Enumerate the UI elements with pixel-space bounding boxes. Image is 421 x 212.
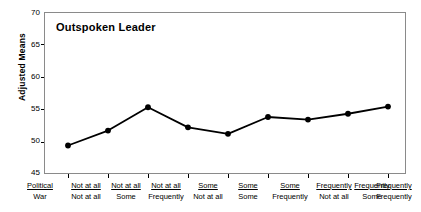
- data-point-1: [65, 143, 71, 149]
- x-tick-mark-1: [68, 174, 69, 178]
- y-tick-label-60: 60: [24, 73, 40, 81]
- chart-figure: Adjusted Means 70 65 60 55 50 45 Outspok…: [0, 0, 421, 212]
- x-category-5-line2: Some: [228, 192, 268, 203]
- y-tick-label-50: 50: [24, 137, 40, 145]
- x-axis-header-line1: Political: [18, 181, 62, 192]
- x-tick-mark-9: [388, 174, 389, 178]
- x-category-4-line1: Some: [184, 181, 232, 192]
- y-tick-label-45: 45: [24, 169, 40, 177]
- x-category-5-line1: Some: [228, 181, 268, 192]
- data-point-6: [265, 114, 271, 120]
- data-point-8: [345, 111, 351, 117]
- series-line: [68, 107, 388, 146]
- x-tick-mark-7: [308, 174, 309, 178]
- y-tick-label-55: 55: [24, 105, 40, 113]
- x-tick-mark-6: [268, 174, 269, 178]
- x-category-9-line2: Frequently: [368, 192, 420, 203]
- x-category-4: Some Not at all: [184, 181, 232, 202]
- x-axis-header-line2: War: [18, 192, 62, 203]
- x-category-9: Frequently Frequently: [368, 181, 420, 202]
- data-point-7: [305, 117, 311, 123]
- x-axis-category-labels: Political War Not at all Not at all Not …: [0, 181, 421, 212]
- x-category-4-line2: Not at all: [184, 192, 232, 203]
- x-category-9-line1: Frequently: [368, 181, 420, 192]
- x-category-5: Some Some: [228, 181, 268, 202]
- data-point-9: [385, 104, 391, 110]
- data-point-5: [225, 131, 231, 137]
- data-point-2: [105, 128, 111, 134]
- x-tick-mark-8: [348, 174, 349, 178]
- x-tick-mark-2: [108, 174, 109, 178]
- series-markers: [65, 104, 391, 149]
- data-point-4: [185, 124, 191, 130]
- y-tick-label-70: 70: [24, 9, 40, 17]
- x-tick-mark-4: [188, 174, 189, 178]
- x-axis-header: Political War: [18, 181, 62, 202]
- data-point-3: [145, 104, 151, 110]
- y-tick-label-65: 65: [24, 41, 40, 49]
- x-tick-mark-5: [228, 174, 229, 178]
- data-series-outspoken-leader: [44, 12, 406, 174]
- x-tick-mark-3: [148, 174, 149, 178]
